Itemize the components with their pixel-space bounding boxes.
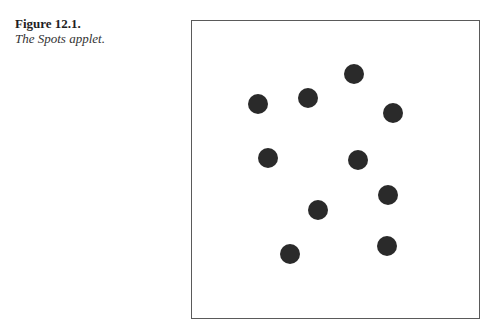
spots-applet-canvas[interactable] bbox=[191, 20, 480, 319]
spot bbox=[378, 185, 398, 205]
spot bbox=[344, 64, 364, 84]
spot bbox=[298, 88, 318, 108]
spot bbox=[348, 150, 368, 170]
spot bbox=[248, 94, 268, 114]
spot bbox=[258, 148, 278, 168]
spot bbox=[280, 244, 300, 264]
spot bbox=[383, 103, 403, 123]
spot bbox=[377, 236, 397, 256]
spot bbox=[308, 200, 328, 220]
figure-title: The Spots applet. bbox=[15, 31, 105, 46]
figure-caption: Figure 12.1. The Spots applet. bbox=[15, 16, 105, 46]
figure-label: Figure 12.1. bbox=[15, 16, 105, 31]
